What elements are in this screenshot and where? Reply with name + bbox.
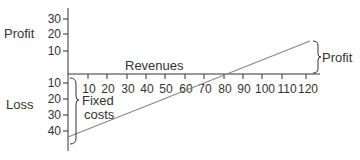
y-ticks-profit: 30 20 10 xyxy=(48,12,68,58)
tick-label: 30 xyxy=(48,12,62,26)
tick-label: 30 xyxy=(121,82,135,96)
tick-label: 110 xyxy=(277,82,296,96)
profit-axis-label: Profit xyxy=(4,26,35,41)
fixed-costs-label-2: costs xyxy=(84,107,115,122)
profit-brace xyxy=(313,41,321,73)
tick-label: 20 xyxy=(48,27,62,41)
y-ticks-loss: 10 20 30 40 xyxy=(48,76,68,138)
tick-label: 50 xyxy=(159,82,173,96)
fixed-costs-label-1: Fixed xyxy=(82,93,114,108)
tick-label: 40 xyxy=(140,82,154,96)
tick-label: 80 xyxy=(218,82,232,96)
tick-label: 60 xyxy=(179,82,193,96)
tick-label: 120 xyxy=(298,82,318,96)
tick-label: 10 xyxy=(48,44,62,58)
loss-axis-label: Loss xyxy=(6,97,34,112)
revenues-label: Revenues xyxy=(125,58,184,73)
tick-label: 90 xyxy=(237,82,251,96)
tick-label: 40 xyxy=(48,124,62,138)
tick-label: 100 xyxy=(255,82,275,96)
profit-brace-label: Profit xyxy=(322,50,353,65)
tick-label: 10 xyxy=(48,76,62,90)
breakeven-chart: 30 20 10 10 20 30 40 10 20 30 40 50 60 7… xyxy=(0,0,360,160)
tick-label: 20 xyxy=(48,92,62,106)
tick-label: 30 xyxy=(48,108,62,122)
